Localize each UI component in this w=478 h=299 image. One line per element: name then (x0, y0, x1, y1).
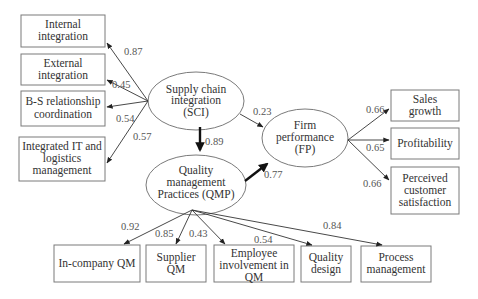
svg-text:QM: QM (245, 271, 264, 283)
svg-text:Firm: Firm (294, 119, 316, 131)
loading-employee: 0.43 (189, 228, 207, 239)
svg-text:growth: growth (409, 105, 442, 118)
svg-text:Profitability: Profitability (397, 137, 453, 150)
svg-text:design: design (311, 263, 341, 276)
svg-text:Sales: Sales (413, 93, 438, 105)
loading-profit: 0.65 (366, 142, 384, 153)
loading-external: 0.45 (112, 79, 130, 90)
latent-fp: Firm performance (FP) (262, 109, 348, 167)
svg-text:management: management (367, 263, 427, 276)
loading-process: 0.84 (323, 220, 342, 231)
qmp-indicator-employee-involvement: Employee involvement in QM (214, 245, 294, 283)
qmp-indicator-process-management: Process management (361, 246, 431, 282)
svg-text:satisfaction: satisfaction (399, 196, 452, 208)
sci-indicator-internal-integration: Internal integration (21, 15, 105, 47)
svg-text:(FP): (FP) (295, 143, 316, 156)
loading-supplier: 0.85 (155, 228, 173, 239)
sem-diagram: Internal integration External integratio… (0, 0, 478, 299)
latent-sci: Supply chain integration (SCI) (148, 72, 244, 130)
svg-text:Process: Process (378, 251, 414, 263)
path-sci-qmp: 0.89 (205, 136, 223, 147)
svg-text:customer: customer (404, 184, 446, 196)
sci-indicator-external-integration: External integration (21, 54, 105, 85)
qmp-indicator-quality-design: Quality design (301, 246, 351, 282)
loading-sales: 0.66 (366, 104, 384, 115)
loading-bs: 0.54 (116, 113, 135, 124)
loading-it: 0.57 (133, 131, 151, 142)
svg-text:management: management (33, 164, 93, 177)
svg-text:Perceived: Perceived (402, 172, 448, 184)
qmp-indicator-supplier-qm: Supplier QM (146, 245, 206, 282)
fp-indicator-perceived-customer-satisfaction: Perceived customer satisfaction (391, 167, 459, 214)
sci-indicator-bs-relationship: B-S relationship coordination (21, 91, 105, 126)
arrow-qmp-design (192, 210, 312, 245)
loading-internal: 0.87 (124, 46, 142, 57)
sci-indicator-integrated-it: Integrated IT and logistics management (19, 137, 105, 181)
qmp-indicator-in-company-qm: In-company QM (54, 245, 140, 282)
svg-text:integration: integration (38, 30, 88, 43)
loading-satisfaction: 0.66 (363, 178, 381, 189)
svg-text:integration: integration (38, 69, 88, 82)
svg-text:In-company QM: In-company QM (59, 257, 136, 270)
path-qmp-fp: 0.77 (264, 169, 282, 180)
loading-design: 0.54 (254, 234, 273, 245)
svg-text:(SCI): (SCI) (183, 106, 209, 119)
latent-qmp: Quality management Practices (QMP) (146, 155, 246, 215)
fp-indicator-profitability: Profitability (391, 128, 459, 159)
path-sci-fp: 0.23 (253, 106, 271, 117)
svg-text:QM: QM (167, 263, 186, 275)
svg-text:involvement in: involvement in (219, 259, 289, 271)
loading-incompany: 0.92 (121, 221, 139, 232)
svg-text:B-S relationship: B-S relationship (25, 95, 100, 108)
fp-indicator-sales-growth: Sales growth (391, 90, 459, 121)
svg-text:Practices (QMP): Practices (QMP) (158, 188, 235, 201)
svg-text:External: External (44, 57, 83, 69)
arrow-sci-bs (107, 101, 148, 107)
svg-text:Internal: Internal (45, 18, 81, 30)
svg-text:coordination: coordination (34, 108, 92, 120)
